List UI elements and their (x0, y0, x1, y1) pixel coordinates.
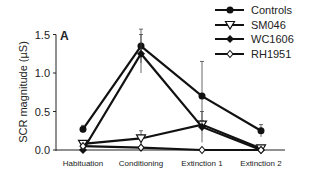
data-point (199, 147, 205, 154)
data-point (80, 126, 87, 133)
legend-item: SM046 (215, 19, 286, 31)
plot-area (79, 29, 266, 154)
panel-label: A (60, 29, 69, 43)
legend-label: SM046 (251, 19, 286, 31)
legend-label: Controls (251, 4, 292, 16)
legend: ControlsSM046WC1606RH1951 (215, 4, 294, 60)
y-tick-label: 1.0 (35, 67, 50, 79)
series-line (83, 46, 261, 131)
y-axis-label: SCR magnitude (µS) (17, 41, 29, 143)
series-line (83, 146, 261, 150)
series-rh1951 (80, 143, 264, 154)
legend-marker-icon (227, 7, 234, 14)
x-tick-label: Conditioning (119, 159, 163, 168)
legend-item: Controls (215, 4, 292, 16)
data-point (258, 127, 265, 134)
legend-item: WC1606 (215, 33, 294, 45)
legend-item: RH1951 (215, 48, 291, 60)
legend-marker-icon (226, 35, 234, 43)
y-tick-label: 0.0 (35, 144, 50, 156)
legend-label: RH1951 (251, 48, 291, 60)
series-controls (80, 29, 265, 137)
scr-line-chart: 0.00.51.01.5SCR magnitude (µS)AHabituati… (0, 0, 313, 177)
x-tick-label: Extinction 2 (240, 159, 282, 168)
x-tick-label: Extinction 1 (181, 159, 223, 168)
legend-marker-icon (227, 51, 233, 58)
y-tick-label: 0.5 (35, 106, 50, 118)
x-tick-label: Habituation (63, 159, 103, 168)
series-line (83, 54, 261, 150)
data-point (199, 93, 206, 100)
legend-label: WC1606 (251, 33, 294, 45)
series-line (83, 125, 261, 149)
y-tick-label: 1.5 (35, 29, 50, 41)
